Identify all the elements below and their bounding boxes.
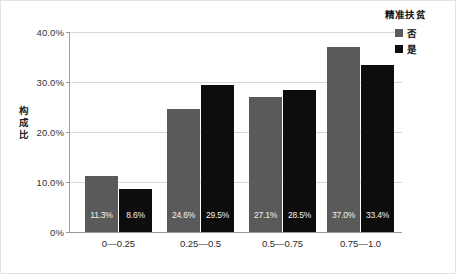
legend-item[interactable]: 是 (395, 42, 447, 56)
y-axis-title-char: 构 (17, 105, 31, 117)
y-axis-title-char: 比 (17, 129, 31, 141)
bar[interactable]: 28.5% (283, 90, 316, 233)
x-axis-tick-label: 0.5—0.75 (238, 238, 328, 249)
chart-legend: 精准扶贫 否是 (385, 7, 447, 58)
bar-value-label: 28.5% (283, 210, 316, 220)
legend-item-label: 否 (407, 26, 417, 40)
chart-figure: 构成比 0%10.0%20.0%30.0%40.0%11.3%8.6%0—0.2… (0, 0, 456, 274)
legend-items: 否是 (385, 26, 447, 56)
x-axis-tick-label: 0.25—0.5 (156, 238, 246, 249)
bar[interactable]: 37.0% (327, 47, 360, 232)
bar[interactable]: 11.3% (85, 176, 118, 233)
y-axis-title-char: 成 (17, 117, 31, 129)
bar[interactable]: 24.6% (167, 109, 200, 232)
legend-item-label: 是 (407, 42, 417, 56)
legend-swatch-icon (395, 29, 403, 37)
bar-group: 27.1%28.5% (249, 32, 316, 232)
bar-group: 37.0%33.4% (327, 32, 394, 232)
bar-value-label: 24.6% (167, 210, 200, 220)
legend-swatch-icon (395, 45, 403, 53)
y-axis-tick (66, 132, 70, 133)
y-axis-tick (66, 232, 70, 233)
y-axis-tick-label: 10.0% (37, 177, 64, 188)
bar-value-label: 37.0% (327, 210, 360, 220)
y-axis-tick (66, 32, 70, 33)
bar-value-label: 29.5% (201, 210, 234, 220)
bar[interactable]: 27.1% (249, 97, 282, 233)
legend-title: 精准扶贫 (385, 7, 447, 21)
y-axis-tick-label: 40.0% (37, 27, 64, 38)
legend-item[interactable]: 否 (395, 26, 447, 40)
y-axis-tick-label: 30.0% (37, 77, 64, 88)
y-axis-tick-label: 0% (50, 227, 64, 238)
y-axis-tick (66, 182, 70, 183)
y-axis-tick (66, 82, 70, 83)
bar-value-label: 33.4% (361, 210, 394, 220)
bar-group: 24.6%29.5% (167, 32, 234, 232)
bar-value-label: 11.3% (85, 210, 118, 220)
y-axis-tick-label: 20.0% (37, 127, 64, 138)
x-axis-tick-label: 0.75—1.0 (316, 238, 406, 249)
x-axis-tick-label: 0—0.25 (74, 238, 164, 249)
bar-value-label: 8.6% (119, 210, 152, 220)
y-axis-title: 构成比 (17, 105, 31, 141)
bar-value-label: 27.1% (249, 210, 282, 220)
plot-area: 0%10.0%20.0%30.0%40.0%11.3%8.6%0—0.2524.… (69, 32, 402, 233)
bar[interactable]: 33.4% (361, 65, 394, 232)
bar-group: 11.3%8.6% (85, 32, 152, 232)
bar[interactable]: 8.6% (119, 189, 152, 232)
bar[interactable]: 29.5% (201, 85, 234, 233)
